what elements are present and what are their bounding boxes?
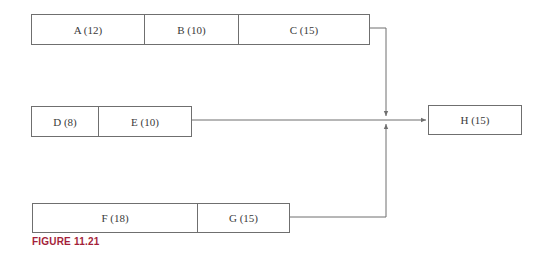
activity-f: F (18) (33, 204, 197, 232)
connector-c-to-merge (369, 28, 386, 116)
activity-e: E (10) (98, 107, 191, 136)
activity-h-box: H (15) (428, 105, 522, 135)
activity-g: G (15) (197, 204, 289, 232)
activity-c: C (15) (238, 15, 369, 44)
activity-d: D (8) (32, 107, 98, 136)
activity-b: B (10) (144, 15, 238, 44)
activity-h: H (15) (429, 106, 521, 134)
figure-caption: FIGURE 11.21 (32, 236, 99, 247)
connector-g-to-merge (289, 124, 386, 217)
activity-chain-row-1: A (12) B (10) C (15) (31, 14, 370, 45)
activity-chain-row-2: D (8) E (10) (31, 106, 192, 137)
activity-chain-row-3: F (18) G (15) (32, 203, 290, 233)
activity-a: A (12) (32, 15, 144, 44)
